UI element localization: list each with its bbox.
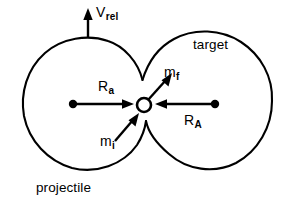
- radius-target-label: RA: [184, 113, 202, 130]
- mass-final-symbol: m: [164, 64, 176, 80]
- velocity-label: Vrel: [96, 5, 118, 22]
- v-rel-arrow-head: [83, 8, 92, 20]
- diagram-canvas: [0, 0, 298, 207]
- radius-projectile-subscript: a: [109, 85, 115, 96]
- mass-final-subscript: f: [176, 71, 179, 82]
- mass-initial-symbol: m: [100, 133, 112, 149]
- interaction-node: [137, 98, 151, 112]
- radius-projectile-label: Ra: [98, 79, 114, 96]
- radius-target-symbol: R: [184, 112, 194, 128]
- radius-projectile-symbol: R: [98, 78, 108, 94]
- m-i-arrow-shaft: [115, 120, 133, 141]
- collision-diagram-figure: Vrel target projectile Ra RA mf mi: [0, 0, 298, 207]
- r-a-arrow-head: [122, 99, 134, 108]
- target-label: target: [193, 38, 228, 52]
- r-A-arrow-head: [155, 99, 167, 108]
- mass-initial-subscript: i: [112, 140, 115, 151]
- velocity-subscript: rel: [106, 11, 119, 22]
- velocity-symbol: V: [96, 4, 105, 20]
- mass-final-label: mf: [164, 65, 180, 82]
- target-circle-outline: [143, 31, 273, 169]
- projectile-label: projectile: [36, 181, 91, 195]
- mass-initial-label: mi: [100, 134, 115, 151]
- m-f-arrow-shaft: [148, 80, 166, 100]
- radius-target-subscript: A: [195, 119, 202, 130]
